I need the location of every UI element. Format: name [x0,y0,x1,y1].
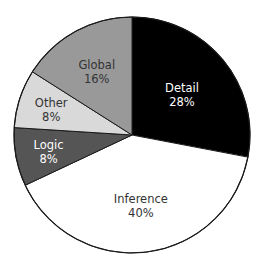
label-detail: Detail28% [165,81,199,109]
pie-chart: Detail28%Inference40%Logic8%Other8%Globa… [0,0,261,268]
